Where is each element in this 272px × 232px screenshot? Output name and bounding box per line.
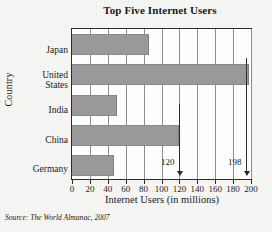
source-prefix: Source: — [5, 213, 28, 222]
gridline-200 — [251, 29, 252, 179]
y-tick-label-japan: Japan — [20, 46, 68, 56]
bar-united-states — [72, 64, 249, 85]
annotation-198-label: 198 — [228, 158, 242, 167]
gridline-140 — [197, 29, 198, 179]
y-tick-label-china: China — [20, 136, 68, 146]
y-axis-tick-labels: Japan United States India China Germany — [20, 28, 68, 180]
source-note: Source: The World Almanac, 2007 — [5, 213, 110, 222]
annotation-198-arrowhead — [244, 171, 250, 176]
chart-title: Top Five Internet Users — [60, 4, 260, 16]
y-tick-label-germany: Germany — [20, 165, 68, 175]
y-axis-label: Country — [3, 60, 14, 120]
gridline-160 — [215, 29, 216, 179]
annotation-120-stem — [179, 104, 180, 172]
chart-figure: Top Five Internet Users Country Japan Un… — [0, 0, 272, 232]
y-tick-label-india: India — [20, 106, 68, 116]
bar-japan — [72, 34, 149, 55]
bar-china — [72, 125, 179, 146]
annotation-120-arrowhead — [177, 171, 183, 176]
source-body: The World Almanac, 2007 — [30, 213, 109, 222]
x-axis-label: Internet Users (in millions) — [62, 194, 262, 205]
bar-india — [72, 95, 117, 116]
annotation-120-label: 120 — [161, 158, 175, 167]
bar-germany — [72, 155, 114, 176]
y-tick-label-united-states: United States — [20, 71, 68, 90]
y-tick-label-us-line2: States — [20, 81, 68, 91]
x-tick-label-200: 200 — [236, 184, 266, 194]
annotation-198-stem — [246, 58, 247, 172]
